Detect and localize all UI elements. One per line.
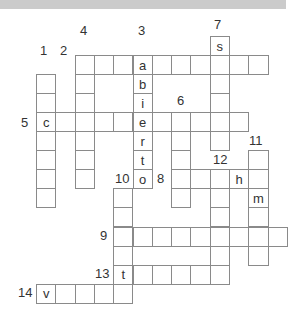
crossword-cell[interactable] (75, 131, 95, 151)
crossword-cell[interactable] (75, 150, 95, 170)
crossword-cell[interactable]: s (210, 36, 230, 56)
crossword-cell[interactable] (36, 131, 56, 151)
cell-letter: a (139, 59, 146, 72)
crossword-cell[interactable] (190, 265, 210, 285)
crossword-cell[interactable] (210, 55, 230, 75)
crossword-cell[interactable] (248, 169, 268, 189)
crossword-cell[interactable] (113, 207, 133, 227)
crossword-cell[interactable]: v (36, 284, 56, 304)
crossword-cell[interactable] (210, 112, 230, 132)
crossword-cell[interactable] (210, 227, 230, 247)
crossword-cell[interactable]: b (133, 74, 153, 94)
crossword-cell[interactable] (229, 112, 249, 132)
crossword-cell[interactable] (36, 93, 56, 113)
clue-number: 9 (100, 229, 107, 242)
cell-letter: e (139, 116, 146, 129)
crossword-cell[interactable]: a (133, 55, 153, 75)
crossword-cell[interactable] (75, 74, 95, 94)
crossword-cell[interactable] (210, 265, 230, 285)
crossword-cell[interactable] (248, 55, 268, 75)
clue-number: 12 (213, 153, 227, 166)
crossword-cell[interactable] (171, 188, 191, 208)
crossword-cell[interactable]: t (113, 265, 133, 285)
crossword-cell[interactable] (75, 112, 95, 132)
crossword-cell[interactable]: t (133, 150, 153, 170)
crossword-cell[interactable] (113, 112, 133, 132)
clue-number: 2 (60, 44, 67, 57)
crossword-cell[interactable] (171, 227, 191, 247)
crossword-cell[interactable] (190, 112, 210, 132)
crossword-cell[interactable] (113, 246, 133, 266)
crossword-cell[interactable] (268, 227, 288, 247)
crossword-cell[interactable] (75, 93, 95, 113)
crossword-cell[interactable] (152, 112, 172, 132)
crossword-cell[interactable] (113, 55, 133, 75)
crossword-cell[interactable] (133, 227, 153, 247)
crossword-cell[interactable] (248, 150, 268, 170)
clue-number: 14 (18, 286, 32, 299)
crossword-cell[interactable] (113, 227, 133, 247)
cell-letter: t (122, 268, 126, 281)
crossword-grid: cabiertoshtmv1234567891011121314 (0, 0, 302, 316)
crossword-cell[interactable] (210, 188, 230, 208)
crossword-cell[interactable] (210, 93, 230, 113)
clue-number: 8 (157, 172, 164, 185)
crossword-cell[interactable] (171, 112, 191, 132)
crossword-cell[interactable] (210, 169, 230, 189)
crossword-cell[interactable] (75, 55, 95, 75)
crossword-cell[interactable] (36, 169, 56, 189)
crossword-cell[interactable] (75, 284, 95, 304)
clue-number: 7 (214, 18, 221, 31)
crossword-cell[interactable] (171, 265, 191, 285)
crossword-cell[interactable] (36, 74, 56, 94)
crossword-cell[interactable] (75, 169, 95, 189)
crossword-cell[interactable] (55, 284, 75, 304)
crossword-cell[interactable] (152, 55, 172, 75)
crossword-cell[interactable]: h (229, 169, 249, 189)
crossword-cell[interactable] (171, 131, 191, 151)
cell-letter: r (140, 135, 144, 148)
cell-letter: i (141, 97, 144, 110)
crossword-cell[interactable] (94, 112, 114, 132)
cell-letter: v (43, 287, 50, 300)
crossword-cell[interactable] (94, 55, 114, 75)
crossword-cell[interactable] (36, 150, 56, 170)
clue-number: 5 (21, 116, 28, 129)
crossword-cell[interactable] (210, 246, 230, 266)
crossword-cell[interactable] (36, 188, 56, 208)
crossword-cell[interactable] (152, 265, 172, 285)
crossword-cell[interactable]: c (36, 112, 56, 132)
crossword-cell[interactable]: r (133, 131, 153, 151)
cell-letter: t (141, 154, 145, 167)
crossword-cell[interactable] (248, 246, 268, 266)
crossword-cell[interactable] (229, 55, 249, 75)
clue-number: 11 (249, 134, 263, 147)
cell-letter: h (236, 173, 243, 186)
crossword-cell[interactable] (190, 169, 210, 189)
crossword-cell[interactable] (113, 284, 133, 304)
crossword-cell[interactable] (113, 188, 133, 208)
crossword-cell[interactable] (229, 227, 249, 247)
cell-letter: m (253, 192, 264, 205)
crossword-cell[interactable]: i (133, 93, 153, 113)
crossword-cell[interactable]: o (133, 169, 153, 189)
crossword-cell[interactable]: e (133, 112, 153, 132)
crossword-cell[interactable] (248, 227, 268, 247)
crossword-cell[interactable] (190, 227, 210, 247)
crossword-cell[interactable] (171, 169, 191, 189)
crossword-cell[interactable] (133, 265, 153, 285)
crossword-cell[interactable] (210, 74, 230, 94)
crossword-cell[interactable] (171, 55, 191, 75)
cell-letter: s (217, 40, 224, 53)
clue-number: 6 (177, 94, 184, 107)
crossword-cell[interactable] (210, 207, 230, 227)
crossword-cell[interactable]: m (248, 188, 268, 208)
crossword-cell[interactable] (171, 150, 191, 170)
crossword-cell[interactable] (190, 55, 210, 75)
crossword-cell[interactable] (248, 207, 268, 227)
crossword-cell[interactable] (152, 227, 172, 247)
crossword-cell[interactable] (55, 112, 75, 132)
crossword-cell[interactable] (94, 284, 114, 304)
cell-letter: c (43, 116, 50, 129)
crossword-cell[interactable] (210, 131, 230, 151)
